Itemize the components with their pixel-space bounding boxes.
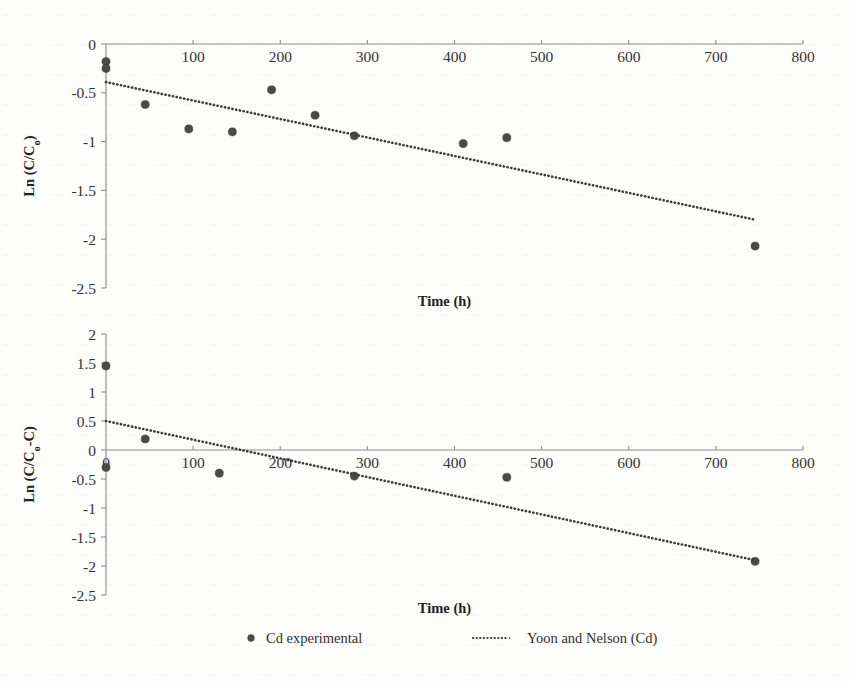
- figure-page: 1002003004005006007008000-0.5-1-1.5-2-2.…: [0, 0, 849, 682]
- x-tick-label: 800: [791, 48, 815, 65]
- legend-svg: Cd experimentalYoon and Nelson (Cd): [0, 616, 849, 676]
- chart-top-ln-c-over-c0: 1002003004005006007008000-0.5-1-1.5-2-2.…: [0, 14, 849, 314]
- chart-bottom-ln-c-over-c0-minus-c: 010020030040050060070080021.510.50-0.5-1…: [0, 316, 849, 616]
- x-tick-label: 500: [530, 454, 554, 471]
- y-tick-label: -1.5: [71, 529, 96, 546]
- y-axis-title-post: -C): [21, 426, 38, 446]
- x-tick-label: 200: [269, 48, 293, 65]
- data-point-marker: [311, 111, 319, 119]
- x-tick-label: 300: [356, 48, 380, 65]
- x-tick-label: 100: [182, 48, 206, 65]
- y-axis-title-post: ): [21, 135, 38, 140]
- y-tick-label: -0.5: [71, 84, 96, 101]
- x-tick-label: 100: [182, 454, 206, 471]
- data-point-marker: [751, 242, 759, 250]
- data-point-marker: [228, 128, 236, 136]
- x-tick-label: 300: [356, 454, 380, 471]
- data-point-marker: [215, 469, 223, 477]
- data-point-marker: [267, 86, 275, 94]
- y-axis-title-pre: Ln (C/C: [21, 145, 38, 196]
- data-point-marker: [102, 64, 110, 72]
- y-tick-label: 2: [88, 326, 96, 343]
- data-point-marker: [185, 125, 193, 133]
- legend-label: Cd experimental: [266, 630, 362, 646]
- x-tick-label: 400: [443, 48, 467, 65]
- y-tick-label: -2: [83, 558, 96, 575]
- x-axis-title: Time (h): [418, 293, 471, 310]
- legend-label: Yoon and Nelson (Cd): [527, 630, 657, 647]
- x-tick-label: 800: [791, 454, 815, 471]
- y-tick-label: -2.5: [71, 280, 96, 297]
- x-tick-label: 600: [617, 454, 641, 471]
- x-tick-label: 500: [530, 48, 554, 65]
- x-tick-label: 400: [443, 454, 467, 471]
- data-point-marker: [102, 463, 110, 471]
- trend-line-yoon-nelson: [106, 82, 755, 220]
- y-tick-label: 0: [88, 36, 96, 53]
- x-tick-label: 600: [617, 48, 641, 65]
- y-tick-label: -2.5: [71, 587, 96, 604]
- x-axis-title: Time (h): [418, 600, 471, 616]
- y-axis-title: Ln (C/Co-C): [21, 426, 42, 503]
- trend-line-yoon-nelson: [106, 421, 755, 560]
- figure-legend: Cd experimentalYoon and Nelson (Cd): [0, 616, 849, 676]
- y-tick-label: -0.5: [71, 471, 96, 488]
- y-axis-title-pre: Ln (C/C: [21, 452, 38, 503]
- chart-bottom-svg: 010020030040050060070080021.510.50-0.5-1…: [0, 316, 849, 616]
- y-axis-title: Ln (C/Co): [21, 135, 42, 196]
- x-tick-label: 700: [704, 48, 728, 65]
- data-point-marker: [141, 435, 149, 443]
- y-tick-label: 0.5: [77, 413, 97, 430]
- y-tick-label: -1.5: [71, 182, 96, 199]
- x-tick-label: 700: [704, 454, 728, 471]
- legend-marker-circle: [248, 635, 255, 642]
- y-tick-label: 1: [88, 384, 96, 401]
- chart-top-svg: 1002003004005006007008000-0.5-1-1.5-2-2.…: [0, 14, 849, 314]
- y-tick-label: 0: [88, 442, 96, 459]
- data-point-marker: [102, 362, 110, 370]
- y-tick-label: -1: [83, 500, 96, 517]
- data-point-marker: [459, 139, 467, 147]
- y-tick-label: -2: [83, 231, 96, 248]
- data-point-marker: [503, 134, 511, 142]
- data-point-marker: [503, 473, 511, 481]
- data-point-marker: [141, 100, 149, 108]
- y-tick-label: 1.5: [77, 355, 97, 372]
- y-tick-label: -1: [83, 133, 96, 150]
